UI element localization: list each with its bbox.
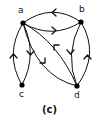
edge-d-b xyxy=(77,22,90,86)
figure-caption: (c) xyxy=(42,105,57,115)
arrow-up-icon xyxy=(84,55,91,59)
arrow-down-icon xyxy=(67,50,74,54)
node-a xyxy=(20,20,25,25)
node-label-c: c xyxy=(19,90,24,99)
node-label-d: d xyxy=(74,91,80,100)
node-c xyxy=(19,82,24,87)
node-label-a: a xyxy=(18,6,24,15)
node-d xyxy=(74,83,79,88)
edge-b-a xyxy=(23,12,81,23)
node-label-b: b xyxy=(79,5,85,14)
arrow-right-icon xyxy=(52,27,56,34)
edge-c-a xyxy=(13,23,23,85)
node-b xyxy=(78,19,83,24)
directed-graph xyxy=(0,0,103,121)
